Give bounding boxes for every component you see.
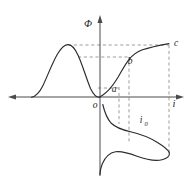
point-label-b: b bbox=[128, 56, 133, 66]
y-axis-label: Φ bbox=[84, 18, 92, 29]
magnetization-curve-figure: Φ i o a b c i 0 bbox=[0, 0, 191, 182]
curve-lower-upper-branch bbox=[103, 105, 169, 153]
curve-left-hump bbox=[32, 45, 100, 98]
figure-canvas: Φ i o a b c i 0 bbox=[0, 0, 191, 182]
x-axis-arrow-left bbox=[8, 94, 16, 99]
guide-lines bbox=[68, 45, 169, 152]
curve-label-i0-base: i bbox=[140, 115, 143, 125]
point-label-a: a bbox=[112, 84, 117, 94]
x-axis-arrow-right bbox=[176, 94, 184, 99]
origin-label: o bbox=[93, 100, 98, 110]
y-axis-arrow-up bbox=[98, 15, 103, 23]
x-axis-label: i bbox=[173, 98, 176, 109]
curve-right-rise bbox=[99, 44, 169, 98]
point-label-c: c bbox=[174, 38, 179, 48]
curve-label-i0: i 0 bbox=[140, 115, 149, 127]
curve-lower-lower-branch bbox=[100, 152, 170, 175]
labels: Φ i o a b c i 0 bbox=[84, 18, 179, 127]
curve-label-i0-subscript: 0 bbox=[144, 120, 148, 127]
